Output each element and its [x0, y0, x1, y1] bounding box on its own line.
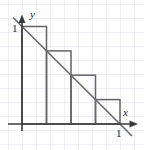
x-tick-label-1: 1	[116, 127, 122, 139]
y-tick-label-1: 1	[12, 22, 18, 34]
y-axis-label: y	[29, 8, 35, 20]
riemann-sum-figure: y x 1 1	[0, 0, 144, 150]
x-axis-label: x	[122, 106, 128, 118]
figure-canvas: y x 1 1	[0, 0, 144, 150]
